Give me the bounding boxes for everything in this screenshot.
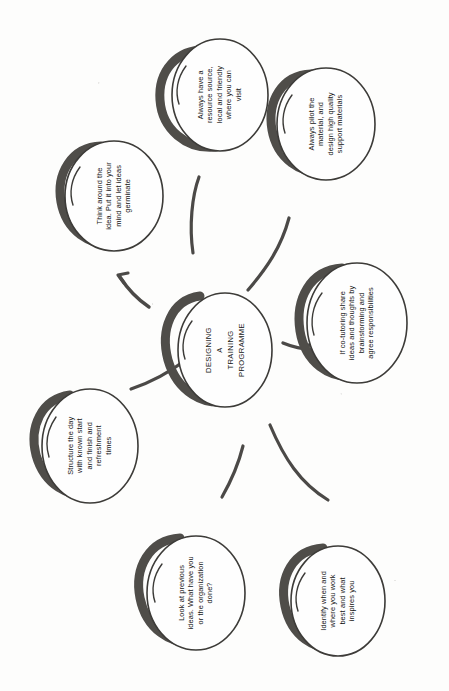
node-co-tutoring[interactable]: If co-tutoring share ideas and thoughts … [303, 268, 411, 378]
node-look-at-previous-ideas[interactable]: Look at previous ideas. What have you or… [146, 543, 246, 643]
label-center: DESIGNING A TRAINING PROGRAMME [203, 323, 247, 377]
label-structure-the-day: Structure the day with known start and f… [66, 417, 113, 475]
node-think-around-idea[interactable]: Think around the idea. Put it into your … [62, 146, 166, 246]
node-pilot-material[interactable]: Always pilot the material, and design hi… [276, 74, 376, 174]
node-structure-the-day[interactable]: Structure the day with known start and f… [40, 396, 140, 496]
label-co-tutoring: If co-tutoring share ideas and thoughts … [338, 286, 376, 360]
connector-to-pilot-material [248, 218, 289, 290]
node-identify-when-and-where[interactable]: Identify when and where you work best an… [288, 551, 388, 651]
node-center[interactable]: DESIGNING A TRAINING PROGRAMME [178, 300, 272, 400]
connector-to-identify-when-and-where [270, 425, 328, 500]
label-resource-source: Always have a resource source, local and… [196, 66, 243, 123]
label-pilot-material: Always pilot the material, and design hi… [307, 92, 345, 155]
node-resource-source[interactable]: Always have a resource source, local and… [170, 45, 270, 145]
connector-to-resource-source [191, 177, 199, 253]
label-identify-when-and-where: Identify when and where you work best an… [319, 571, 357, 631]
mindmap-page: Always have a resource source, local and… [0, 0, 449, 691]
label-look-at-previous-ideas: Look at previous ideas. What have you or… [177, 556, 215, 629]
connector-to-think-around-idea [118, 273, 149, 307]
connector-to-look-at-previous-ideas [222, 446, 243, 497]
label-think-around-idea: Think around the idea. Put it into your … [95, 162, 133, 230]
